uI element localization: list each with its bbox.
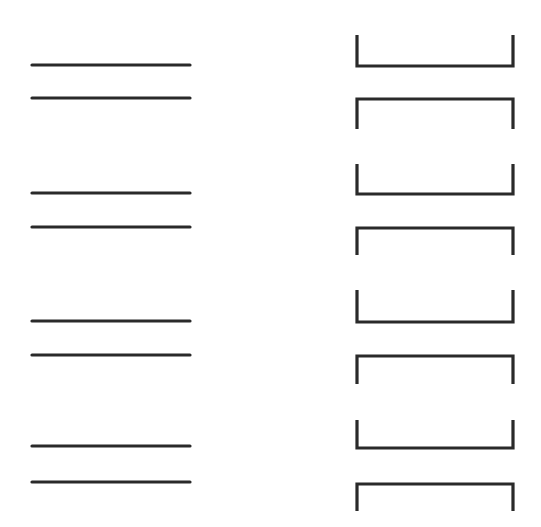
parallel-lines-vs-brackets-figure <box>0 0 541 527</box>
bracket-open-bottom-8 <box>357 484 513 511</box>
bracket-open-bottom-2 <box>357 99 513 129</box>
bracket-open-top-3 <box>357 164 513 194</box>
left-column-line-pairs <box>32 65 190 482</box>
bracket-open-bottom-4 <box>357 228 513 255</box>
right-column-bracket-pairs <box>357 35 513 511</box>
bracket-open-bottom-6 <box>357 356 513 384</box>
bracket-open-top-5 <box>357 290 513 322</box>
diagram-canvas <box>0 0 541 527</box>
bracket-open-top-7 <box>357 420 513 448</box>
bracket-open-top-1 <box>357 35 513 66</box>
